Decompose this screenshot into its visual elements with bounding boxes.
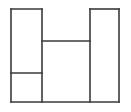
diagram-canvas	[0, 0, 131, 112]
lower-left-rectangle	[11, 73, 42, 102]
middle-rectangle	[42, 41, 90, 102]
rectilinear-figure	[0, 0, 131, 112]
right-rectangle	[90, 9, 119, 102]
upper-left-rectangle	[11, 9, 42, 73]
